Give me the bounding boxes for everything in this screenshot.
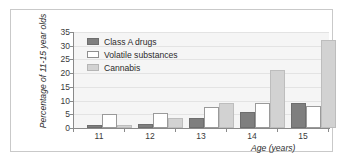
- bar-volatile-substances-13: [204, 107, 219, 128]
- y-axis-line: [73, 32, 74, 129]
- legend-item-label: Volatile substances: [104, 50, 178, 60]
- bar-volatile-substances-12: [153, 113, 168, 128]
- legend-item-label: Cannabis: [104, 63, 140, 73]
- x-tick-mark: [226, 129, 227, 132]
- bar-class-a-drugs-14: [240, 112, 255, 129]
- bar-cannabis-12: [168, 118, 183, 128]
- y-tick-label: 10: [54, 97, 70, 106]
- chart-legend: Class A drugs Volatile substances Cannab…: [87, 35, 217, 74]
- y-axis-label: Percentage of 11-15 year olds: [38, 1, 48, 141]
- legend-swatch-icon: [87, 51, 99, 58]
- y-tick-label: 30: [54, 42, 70, 51]
- y-tick-label: 5: [54, 110, 70, 119]
- y-tick-label: 0: [54, 124, 70, 133]
- bar-cannabis-15: [321, 40, 336, 128]
- bar-volatile-substances-15: [306, 106, 321, 128]
- x-tick-label: 14: [241, 131, 263, 141]
- x-tick-mark: [277, 129, 278, 132]
- bar-volatile-substances-11: [102, 114, 117, 128]
- y-tick-label: 15: [54, 83, 70, 92]
- y-tick-label: 20: [54, 69, 70, 78]
- legend-item-volatile-substances: Volatile substances: [87, 48, 217, 61]
- x-tick-mark: [124, 129, 125, 132]
- chart-figure: Percentage of 11-15 year olds 35 30 25 2…: [0, 0, 344, 163]
- gridline: [73, 32, 329, 33]
- legend-swatch-icon: [87, 38, 99, 45]
- bar-volatile-substances-14: [255, 103, 270, 128]
- x-tick-label: 13: [190, 131, 212, 141]
- bar-cannabis-14: [270, 70, 285, 128]
- x-axis-label: Age (years): [251, 143, 295, 153]
- x-tick-mark: [328, 129, 329, 132]
- gridline: [73, 101, 329, 102]
- x-axis-line: [73, 128, 330, 129]
- x-tick-label: 11: [88, 131, 110, 141]
- y-tick-label: 25: [54, 55, 70, 64]
- bar-class-a-drugs-15: [291, 103, 306, 128]
- y-axis-tick-labels: 35 30 25 20 15 10 5 0: [51, 32, 70, 128]
- gridline: [73, 87, 329, 88]
- legend-item-class-a-drugs: Class A drugs: [87, 35, 217, 48]
- bar-class-a-drugs-13: [189, 118, 204, 128]
- x-tick-mark: [175, 129, 176, 132]
- bar-cannabis-13: [219, 103, 234, 128]
- y-tick-label: 35: [54, 28, 70, 37]
- x-tick-mark: [73, 129, 74, 132]
- y-axis-label-holder: Percentage of 11-15 year olds: [35, 32, 51, 128]
- x-tick-label: 15: [292, 131, 314, 141]
- legend-swatch-icon: [87, 64, 99, 71]
- chart-frame: Percentage of 11-15 year olds 35 30 25 2…: [10, 9, 333, 152]
- legend-item-cannabis: Cannabis: [87, 61, 217, 74]
- legend-item-label: Class A drugs: [104, 37, 157, 47]
- x-tick-label: 12: [139, 131, 161, 141]
